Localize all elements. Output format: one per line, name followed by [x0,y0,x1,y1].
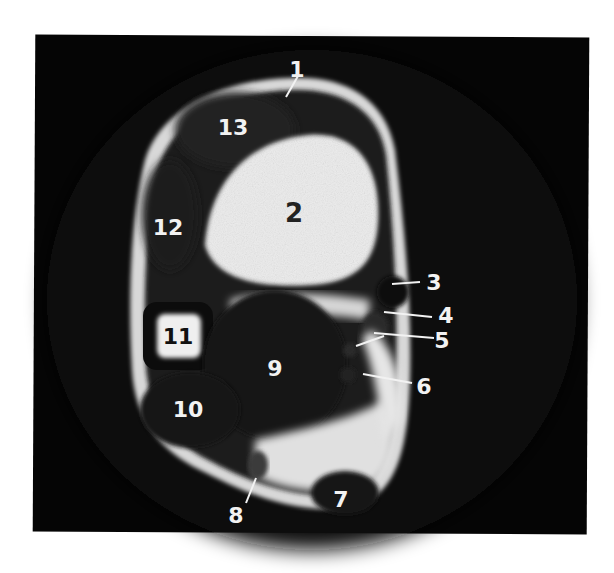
label-8: 8 [228,503,243,528]
label-1: 1 [289,57,304,82]
label-4: 4 [438,303,453,328]
structure-8 [248,451,268,479]
label-7: 7 [333,487,348,512]
label-10: 10 [173,397,204,422]
label-5: 5 [434,328,449,353]
mri-scan: 1 2 3 4 5 6 7 8 9 10 11 12 13 [0,0,614,573]
label-12: 12 [153,215,184,240]
label-3: 3 [426,270,441,295]
structure-3 [377,276,409,308]
label-11: 11 [163,324,194,349]
ankle-cross-section [130,78,410,515]
label-9: 9 [267,356,282,381]
label-6: 6 [416,374,431,399]
label-13: 13 [218,115,249,140]
label-2: 2 [285,198,303,228]
